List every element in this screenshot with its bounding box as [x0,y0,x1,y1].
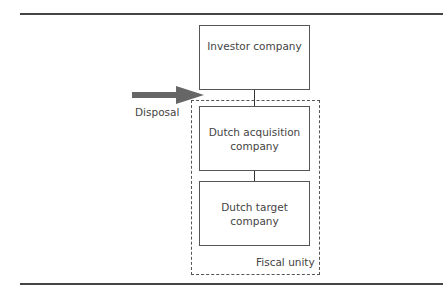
top-rule [20,13,443,15]
fiscal-unity-label: Fiscal unity [256,256,315,268]
dutch-target-company-box: Dutch target company [199,181,310,246]
connector-acquisition-target [254,171,255,181]
dutch-acquisition-company-box: Dutch acquisition company [199,106,310,171]
investor-company-box: Investor company [199,25,310,90]
bottom-rule [20,283,443,285]
disposal-arrow-icon [128,84,208,108]
dutch-target-company-label: Dutch target company [218,200,291,228]
disposal-label: Disposal [135,106,179,118]
investor-company-label: Investor company [207,39,302,53]
dutch-acquisition-company-label: Dutch acquisition company [206,125,303,153]
